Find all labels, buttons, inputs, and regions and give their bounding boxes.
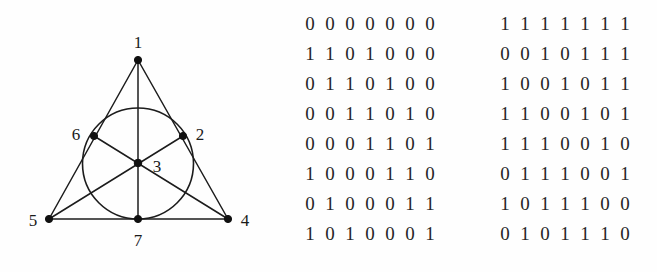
matrix-cell: 1 [420, 219, 440, 249]
matrix-cell: 1 [360, 129, 380, 159]
matrix-cell: 0 [515, 189, 535, 219]
matrix-cell: 1 [575, 219, 595, 249]
matrix-cell: 1 [595, 9, 615, 39]
matrix-cell: 0 [575, 159, 595, 189]
matrix-cell: 1 [515, 99, 535, 129]
matrix-cell: 0 [400, 39, 420, 69]
matrix-cell: 0 [575, 69, 595, 99]
matrix-cell: 0 [380, 219, 400, 249]
matrix-cell: 0 [320, 9, 340, 39]
vertex-3 [134, 159, 142, 167]
matrix-cell: 0 [535, 219, 555, 249]
matrix-cell: 0 [595, 159, 615, 189]
matrix-cell: 0 [555, 99, 575, 129]
matrix-cell: 0 [300, 189, 320, 219]
matrix-cell: 1 [380, 129, 400, 159]
matrix-cell: 1 [575, 9, 595, 39]
matrix-cell: 0 [420, 69, 440, 99]
vertex-label-4: 4 [241, 211, 250, 230]
matrix-cell: 1 [300, 159, 320, 189]
line-5-3-2 [49, 136, 183, 219]
matrix-cell: 0 [380, 189, 400, 219]
matrix-cell: 0 [380, 9, 400, 39]
matrix-cell: 1 [575, 99, 595, 129]
matrix-cell: 0 [575, 129, 595, 159]
vertex-label-1: 1 [134, 33, 143, 52]
incidence-matrix-right: 1 1 1 1 1 1 1 0 0 1 0 1 1 1 1 0 0 [495, 0, 657, 272]
matrix-cell: 0 [555, 129, 575, 159]
matrix-cell: 1 [575, 39, 595, 69]
matrix-cell: 0 [495, 39, 515, 69]
matrix-cell: 0 [420, 99, 440, 129]
matrix-cell: 0 [320, 159, 340, 189]
figure-page: 1 2 3 4 5 6 7 0 0 0 0 0 0 0 1 [0, 0, 657, 272]
matrix-cell: 1 [515, 9, 535, 39]
matrix-cell: 0 [360, 189, 380, 219]
matrix-cell: 1 [615, 159, 635, 189]
matrix-cell: 0 [595, 99, 615, 129]
matrix-cell: 1 [555, 189, 575, 219]
vertex-label-2: 2 [196, 125, 205, 144]
matrix-right-grid: 1 1 1 1 1 1 1 0 0 1 0 1 1 1 1 0 0 [495, 9, 635, 249]
matrix-cell: 0 [615, 129, 635, 159]
matrix-cell: 1 [555, 159, 575, 189]
matrix-cell: 0 [320, 129, 340, 159]
matrix-cell: 0 [360, 69, 380, 99]
matrix-cell: 0 [340, 129, 360, 159]
vertex-1 [134, 56, 141, 63]
matrix-cell: 1 [300, 219, 320, 249]
matrix-cell: 0 [615, 219, 635, 249]
matrix-cell: 1 [535, 159, 555, 189]
matrix-cell: 1 [555, 69, 575, 99]
matrix-cell: 1 [340, 69, 360, 99]
matrix-cell: 0 [340, 9, 360, 39]
matrix-cell: 0 [400, 219, 420, 249]
vertex-5 [45, 215, 52, 222]
matrix-cell: 1 [535, 189, 555, 219]
matrix-cell: 0 [420, 159, 440, 189]
matrix-cell: 1 [515, 159, 535, 189]
matrix-cell: 0 [360, 159, 380, 189]
matrix-cell: 1 [360, 99, 380, 129]
matrix-cell: 1 [380, 159, 400, 189]
matrix-cell: 0 [300, 129, 320, 159]
matrix-cell: 1 [535, 39, 555, 69]
matrix-cell: 1 [340, 99, 360, 129]
matrix-cell: 1 [320, 69, 340, 99]
matrix-cell: 1 [595, 129, 615, 159]
matrix-cell: 0 [300, 9, 320, 39]
matrix-cell: 0 [380, 39, 400, 69]
matrix-cell: 0 [400, 9, 420, 39]
matrix-cell: 1 [595, 39, 615, 69]
matrix-cell: 0 [400, 69, 420, 99]
matrix-cell: 1 [615, 39, 635, 69]
matrix-cell: 1 [615, 9, 635, 39]
matrix-cell: 0 [380, 99, 400, 129]
vertex-7 [134, 215, 141, 222]
matrix-cell: 1 [320, 39, 340, 69]
matrix-cell: 0 [400, 129, 420, 159]
matrix-cell: 0 [555, 39, 575, 69]
matrix-cell: 1 [515, 129, 535, 159]
matrix-cell: 1 [495, 99, 515, 129]
matrix-cell: 1 [300, 39, 320, 69]
matrix-cell: 0 [300, 99, 320, 129]
matrix-cell: 1 [495, 189, 515, 219]
matrix-cell: 1 [615, 99, 635, 129]
matrix-cell: 0 [340, 189, 360, 219]
matrix-cell: 0 [340, 159, 360, 189]
matrix-cell: 1 [495, 69, 515, 99]
matrix-cell: 1 [615, 69, 635, 99]
matrix-cell: 1 [515, 219, 535, 249]
matrix-cell: 1 [400, 99, 420, 129]
matrix-cell: 1 [575, 189, 595, 219]
vertex-label-5: 5 [29, 211, 38, 230]
vertex-4 [224, 215, 231, 222]
matrix-cell: 0 [535, 69, 555, 99]
matrix-cell: 0 [360, 9, 380, 39]
vertex-label-6: 6 [72, 125, 81, 144]
matrix-cell: 0 [515, 39, 535, 69]
matrix-cell: 0 [615, 189, 635, 219]
matrix-cell: 0 [420, 9, 440, 39]
matrix-cell: 1 [595, 69, 615, 99]
